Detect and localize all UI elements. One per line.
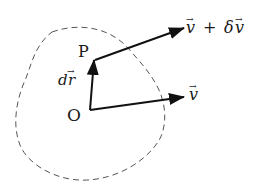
svg-text:+: +: [203, 18, 216, 37]
v-plus-dv-label: v → + δ v →: [186, 14, 244, 37]
velocity-diagram: O P d r → v → v → + δ v →: [0, 0, 277, 190]
dr-vector: [90, 60, 94, 110]
vec-arrow-icon: →: [189, 81, 197, 91]
vec-arrow-icon: →: [67, 66, 75, 76]
point-P-label: P: [78, 42, 89, 61]
dr-label: d r →: [58, 66, 76, 89]
svg-text:δ: δ: [224, 18, 234, 37]
v-plus-dv-vector: [95, 28, 184, 60]
v-vector: [90, 97, 184, 110]
vec-arrow-icon: →: [235, 14, 243, 24]
point-O-label: O: [67, 105, 81, 125]
v-label: v →: [189, 81, 198, 104]
vec-arrow-icon: →: [186, 14, 194, 24]
